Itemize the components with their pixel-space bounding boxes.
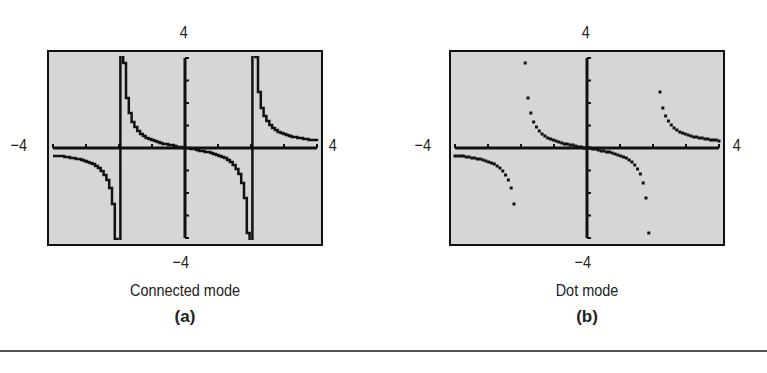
calculator-screen (449, 50, 725, 246)
graph-panel-connected: 4 −4 4 −4 Connected mode (a) (0, 0, 383, 340)
ymin-label: −4 (574, 254, 590, 271)
xmin-label: −4 (414, 137, 430, 154)
graph-panel-dot: 4 −4 4 −4 Dot mode (b) (383, 0, 766, 340)
ymax-label: 4 (180, 24, 188, 41)
bottom-divider (0, 350, 767, 352)
panel-sublabel: (a) (155, 307, 215, 327)
xmax-label: 4 (329, 137, 337, 154)
xmin-label: −4 (10, 137, 26, 154)
xmax-label: 4 (733, 137, 741, 154)
plot-connected (49, 52, 321, 244)
panel-sublabel: (b) (557, 307, 617, 327)
mode-caption: Dot mode (502, 281, 672, 301)
ymin-label: −4 (172, 254, 188, 271)
plot-dot (451, 52, 723, 244)
ymax-label: 4 (582, 24, 590, 41)
mode-caption: Connected mode (100, 281, 270, 301)
calculator-screen (47, 50, 323, 246)
